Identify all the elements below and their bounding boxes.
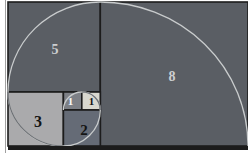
fibonacci-diagram-svg: 5 8 3 2 1 1 <box>0 0 248 153</box>
label-square-5: 5 <box>52 42 59 57</box>
diagram-group: 5 8 3 2 1 1 <box>8 2 248 150</box>
label-square-2: 2 <box>80 122 88 138</box>
label-square-8: 8 <box>169 69 176 84</box>
label-square-1-right: 1 <box>89 95 95 107</box>
diagram-bottom-border <box>8 146 248 150</box>
fibonacci-spiral-figure: 5 8 3 2 1 1 <box>0 0 248 153</box>
label-square-3: 3 <box>34 113 42 130</box>
label-square-1-left: 1 <box>68 95 74 107</box>
